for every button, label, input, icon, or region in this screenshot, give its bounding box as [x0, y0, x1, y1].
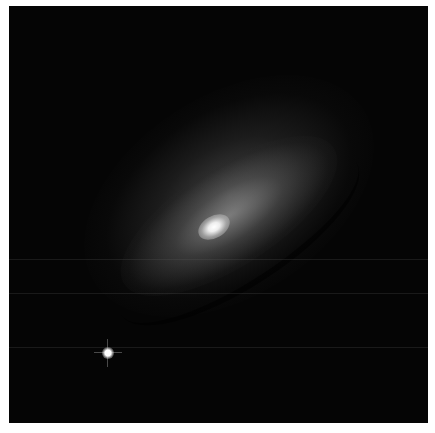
scan-line — [9, 259, 428, 260]
galaxy-image — [9, 6, 428, 423]
foreground-star — [102, 347, 114, 359]
scan-line — [9, 347, 428, 348]
scan-line — [9, 293, 428, 294]
